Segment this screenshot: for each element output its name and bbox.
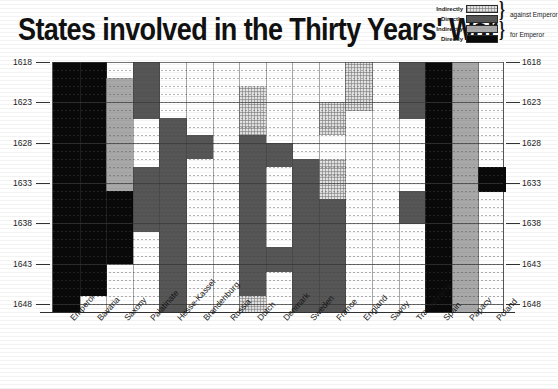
heatmap-cell [106, 256, 133, 265]
legend-group-label: for Emperor [510, 31, 544, 38]
y-axis-tick-mark [506, 264, 520, 265]
y-axis-tick-label: 1633 [0, 179, 32, 187]
y-axis-tick-mark [36, 102, 50, 103]
heatmap-cell [319, 127, 346, 136]
y-axis-tick-mark [506, 183, 520, 184]
y-axis-tick-label: 1618 [522, 58, 541, 66]
legend-swatch-direct-against [466, 15, 498, 23]
heatmap-cell [133, 110, 160, 119]
y-axis-tick-label: 1628 [0, 139, 32, 147]
y-axis-tick-mark [506, 62, 520, 63]
y-axis-tick-label: 1633 [522, 179, 541, 187]
heatmap-cell [133, 223, 160, 232]
y-axis-tick-mark [36, 143, 50, 144]
legend-swatch-indirect-against [466, 5, 498, 13]
heatmap-cell [345, 102, 372, 111]
y-axis-tick-mark [36, 223, 50, 224]
legend-swatch-indirect-for [466, 25, 498, 33]
y-axis-tick-label: 1638 [522, 219, 541, 227]
heatmap-cells [53, 62, 503, 312]
legend-swatch-direct-for [466, 35, 498, 43]
legend-brace: } [499, 24, 505, 38]
heatmap-cell [266, 159, 293, 168]
y-axis-tick-label: 1618 [0, 58, 32, 66]
y-axis-tick-label: 1643 [0, 260, 32, 268]
heatmap-cell [399, 215, 426, 224]
y-axis-tick-label: 1623 [522, 98, 541, 106]
y-axis-tick-mark [506, 223, 520, 224]
y-axis-tick-label: 1628 [522, 139, 541, 147]
legend-group-label: against Emperor [510, 11, 558, 18]
y-axis-tick-mark [36, 62, 50, 63]
y-axis-tick-mark [36, 183, 50, 184]
heatmap-cell [186, 151, 213, 160]
heatmap-cell [266, 264, 293, 273]
legend-row-label: Directly [418, 35, 463, 44]
legend-brace: } [499, 4, 505, 18]
legend-row-label: Indirectly [418, 25, 463, 34]
heatmap-cell [478, 183, 505, 192]
legend-row-label: Indirectly [418, 5, 463, 14]
y-axis-tick-label: 1643 [522, 260, 541, 268]
y-axis-tick-label: 1638 [0, 219, 32, 227]
y-axis-tick-mark [506, 143, 520, 144]
heatmap-plot [52, 62, 504, 312]
y-axis-tick-mark [36, 264, 50, 265]
y-axis-tick-mark [506, 102, 520, 103]
legend: IndirectlyDirectlyIndirectlyDirectly}aga… [418, 5, 557, 45]
heatmap-cell [399, 110, 426, 119]
y-axis-tick-mark [36, 304, 50, 305]
y-axis-tick-label: 1648 [522, 300, 541, 308]
y-axis-tick-label: 1623 [0, 98, 32, 106]
y-axis-tick-label: 1648 [0, 300, 32, 308]
legend-row-label: Directly [418, 15, 463, 24]
